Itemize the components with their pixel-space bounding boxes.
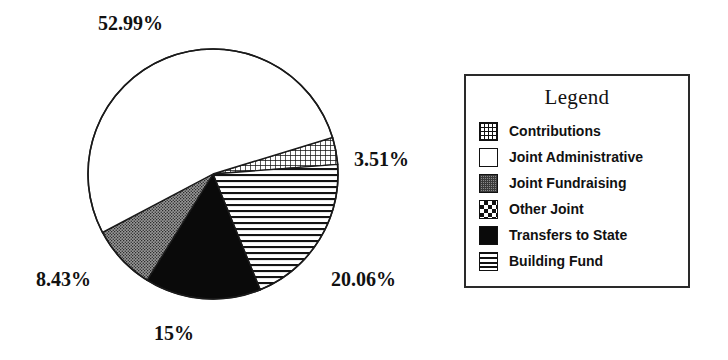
pie-label-contributions: 3.51%	[354, 148, 409, 171]
legend-item-label: Joint Administrative	[509, 150, 643, 164]
legend-list: ContributionsJoint AdministrativeJoint F…	[466, 118, 688, 274]
legend-item-label: Joint Fundraising	[509, 176, 626, 190]
solid-swatch-icon	[479, 226, 498, 245]
legend-item-contributions[interactable]: Contributions	[479, 118, 688, 144]
white-swatch-icon	[479, 148, 498, 167]
hlines-swatch-icon	[479, 252, 498, 271]
pie-label-joint-administrative: 52.99%	[98, 12, 163, 35]
pie-chart-figure: 52.99% 3.51% 20.06% 15% 8.43% Legend Con…	[0, 0, 728, 360]
legend-item-other-joint[interactable]: Other Joint	[479, 196, 688, 222]
pie-chart-svg	[0, 0, 440, 360]
stipple-swatch-icon	[479, 174, 498, 193]
checker-swatch-icon	[479, 200, 498, 219]
legend-item-label: Contributions	[509, 124, 601, 138]
legend-item-joint-administrative[interactable]: Joint Administrative	[479, 144, 688, 170]
legend-item-label: Transfers to State	[509, 228, 627, 242]
legend-item-label: Building Fund	[509, 254, 603, 268]
crosshatch-swatch-icon	[479, 122, 498, 141]
legend-item-building-fund[interactable]: Building Fund	[479, 248, 688, 274]
pie-label-joint-fundraising: 8.43%	[36, 268, 91, 291]
legend-item-label: Other Joint	[509, 202, 584, 216]
legend-box: Legend ContributionsJoint Administrative…	[464, 74, 690, 288]
legend-item-joint-fundraising[interactable]: Joint Fundraising	[479, 170, 688, 196]
pie-label-building-fund: 20.06%	[331, 268, 396, 291]
pie-slices-group	[88, 49, 338, 299]
legend-item-transfers-to-state[interactable]: Transfers to State	[479, 222, 688, 248]
pie-label-transfers-to-state: 15%	[154, 322, 194, 345]
legend-title: Legend	[466, 85, 688, 110]
pie-chart-area	[0, 0, 440, 360]
